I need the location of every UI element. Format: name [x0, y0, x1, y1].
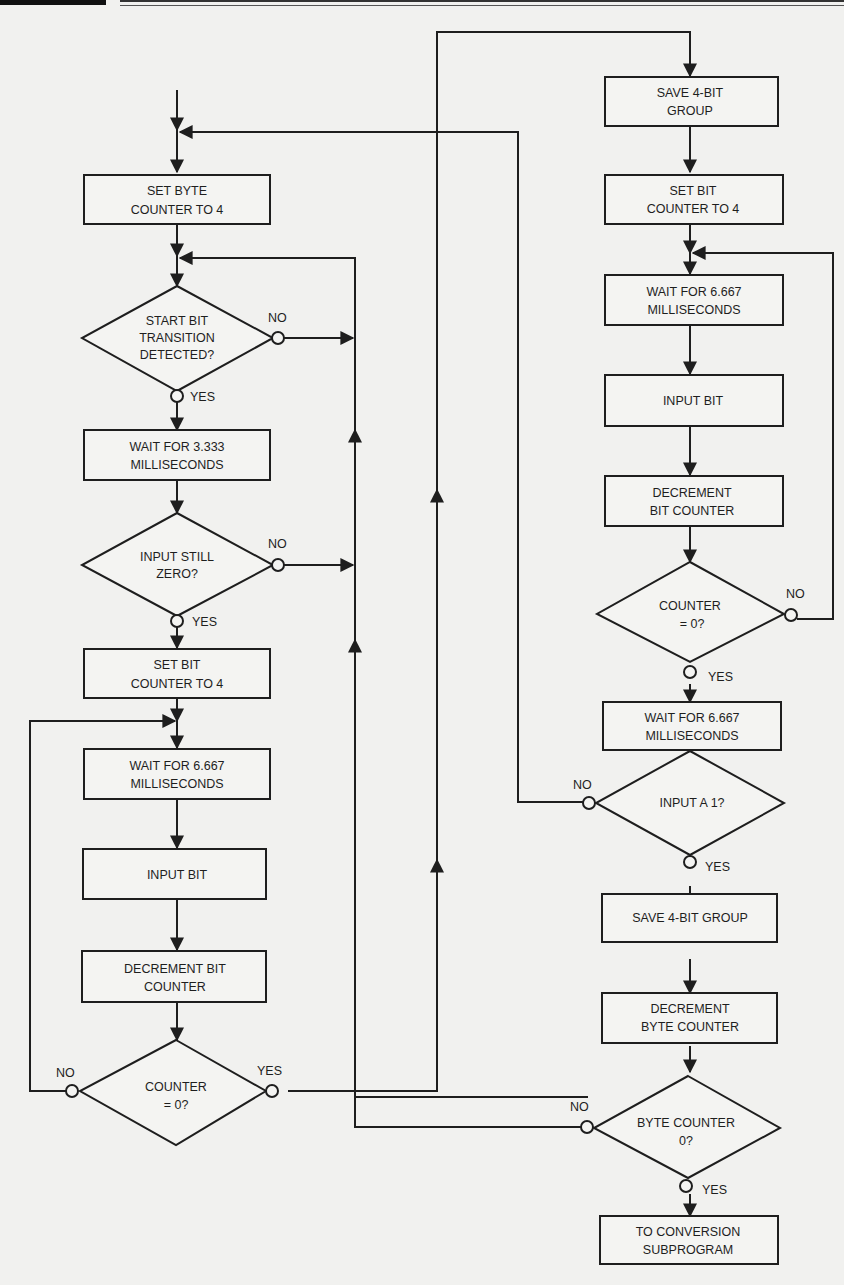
node-text: INPUT A 1?	[659, 796, 724, 810]
connector-circle	[66, 1085, 78, 1097]
node-text: BYTE COUNTER	[637, 1116, 735, 1130]
node-text: COUNTER TO 4	[131, 677, 224, 691]
decision-input-a-1: INPUT A 1? NO YES	[573, 751, 784, 874]
node-text: ZERO?	[156, 567, 198, 581]
connector-circle	[684, 856, 696, 868]
node-text: MILLISECONDS	[645, 729, 738, 743]
node-r-set-bit-counter: SET BIT COUNTER TO 4	[605, 175, 783, 224]
decision-input-still-zero: INPUT STILL ZERO? NO YES	[82, 513, 287, 629]
connector-circle	[272, 559, 284, 571]
node-r-input-bit: INPUT BIT	[605, 375, 783, 426]
connector-circle	[272, 332, 284, 344]
node-text: GROUP	[667, 104, 713, 118]
node-text: = 0?	[164, 1098, 189, 1112]
node-set-byte-counter: SET BYTE COUNTER TO 4	[84, 175, 270, 224]
node-r-decrement-bit-counter: DECREMENT BIT COUNTER	[605, 476, 783, 526]
node-text: COUNTER	[144, 980, 206, 994]
node-text: INPUT STILL	[140, 550, 214, 564]
node-wait-6667: WAIT FOR 6.667 MILLISECONDS	[84, 749, 270, 799]
node-set-bit-counter: SET BIT COUNTER TO 4	[84, 649, 270, 698]
node-to-conversion-subprogram: TO CONVERSION SUBPROGRAM	[600, 1216, 778, 1264]
yes-label: YES	[708, 670, 733, 684]
left-column: SET BYTE COUNTER TO 4 START BIT TRANSITI…	[56, 175, 287, 1145]
connector-circle	[581, 1121, 593, 1133]
node-text: SET BIT	[669, 184, 716, 198]
node-text: TO CONVERSION	[636, 1225, 741, 1239]
no-label: NO	[786, 587, 805, 601]
node-text: SAVE 4-BIT	[657, 86, 724, 100]
node-text: START BIT	[146, 314, 209, 328]
connector-circle	[684, 666, 696, 678]
node-wait-3333: WAIT FOR 3.333 MILLISECONDS	[84, 430, 270, 480]
node-decrement-byte-counter: DECREMENT BYTE COUNTER	[602, 993, 777, 1043]
connector-circle	[171, 615, 183, 627]
node-text: COUNTER TO 4	[647, 202, 740, 216]
node-text: COUNTER TO 4	[131, 203, 224, 217]
yes-label: YES	[190, 390, 215, 404]
connector-circle	[171, 390, 183, 402]
no-label: NO	[268, 311, 287, 325]
connector-circle	[583, 797, 595, 809]
node-text: DECREMENT	[650, 1002, 730, 1016]
no-label: NO	[56, 1066, 75, 1080]
node-text: WAIT FOR 3.333	[129, 440, 224, 454]
node-r-wait-6667-b: WAIT FOR 6.667 MILLISECONDS	[603, 702, 781, 750]
node-save-4bit-group-b: SAVE 4-BIT GROUP	[602, 894, 777, 942]
node-text: SET BYTE	[147, 184, 207, 198]
yes-label: YES	[702, 1183, 727, 1197]
node-text: MILLISECONDS	[647, 303, 740, 317]
decision-counter-zero: COUNTER = 0? NO YES	[56, 1040, 282, 1145]
connector-circle	[680, 1180, 692, 1192]
node-text: BYTE COUNTER	[641, 1020, 739, 1034]
node-text: SET BIT	[153, 658, 200, 672]
node-text: SUBPROGRAM	[643, 1243, 733, 1257]
node-text: COUNTER	[659, 599, 721, 613]
node-r-wait-6667-a: WAIT FOR 6.667 MILLISECONDS	[605, 275, 783, 325]
node-text: TRANSITION	[139, 331, 215, 345]
node-text: COUNTER	[145, 1080, 207, 1094]
right-column: SAVE 4-BIT GROUP SET BIT COUNTER TO 4 WA…	[570, 77, 805, 1264]
decision-byte-counter-zero: BYTE COUNTER 0? NO YES	[570, 1076, 780, 1197]
node-text: BIT COUNTER	[650, 504, 735, 518]
node-save-4bit-group-a: SAVE 4-BIT GROUP	[605, 77, 778, 126]
flowchart: SET BYTE COUNTER TO 4 START BIT TRANSITI…	[0, 0, 844, 1285]
decision-r-counter-zero: COUNTER = 0? NO YES	[597, 562, 805, 684]
node-text: DETECTED?	[140, 348, 214, 362]
node-text: MILLISECONDS	[130, 777, 223, 791]
no-label: NO	[573, 778, 592, 792]
node-text: DECREMENT	[652, 486, 732, 500]
connector-circle	[266, 1085, 278, 1097]
node-text: INPUT BIT	[147, 868, 208, 882]
node-text: WAIT FOR 6.667	[644, 711, 739, 725]
node-decrement-bit-counter: DECREMENT BIT COUNTER	[82, 951, 266, 1002]
node-text: WAIT FOR 6.667	[129, 759, 224, 773]
node-text: 0?	[679, 1134, 693, 1148]
node-input-bit: INPUT BIT	[83, 849, 266, 899]
node-text: MILLISECONDS	[130, 458, 223, 472]
connector-circle	[785, 609, 797, 621]
decision-start-bit: START BIT TRANSITION DETECTED? NO YES	[82, 286, 287, 404]
yes-label: YES	[192, 615, 217, 629]
yes-label: YES	[705, 860, 730, 874]
byte-counter-no-to-loop	[355, 1097, 581, 1127]
no-label: NO	[570, 1100, 589, 1114]
node-text: SAVE 4-BIT GROUP	[632, 911, 748, 925]
yes-label: YES	[257, 1064, 282, 1078]
no-label: NO	[268, 537, 287, 551]
node-text: WAIT FOR 6.667	[646, 285, 741, 299]
node-text: DECREMENT BIT	[124, 962, 226, 976]
node-text: INPUT BIT	[663, 394, 724, 408]
node-text: = 0?	[680, 617, 705, 631]
